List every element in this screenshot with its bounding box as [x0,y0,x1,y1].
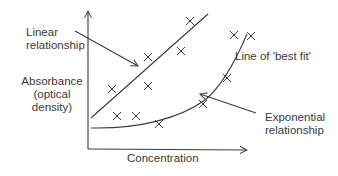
y-axis-label-line2: (optical [20,88,84,101]
linear-label-line2: relationship [26,39,85,52]
y-axis-label-line3: density) [20,101,84,114]
linear-relationship-label: Linear relationship [26,26,85,52]
linear-label-line1: Linear [26,26,85,39]
data-point-crosses [108,17,255,128]
exponential-label-line2: relationship [265,124,325,137]
y-axis-label: Absorbance (optical density) [20,75,84,114]
exponential-annotation-arrow [200,94,256,113]
linear-fit-line [91,14,208,118]
exponential-relationship-label: Exponential relationship [265,111,325,137]
exponential-label-line1: Exponential [265,111,325,124]
best-fit-label: Line of 'best fit' [235,50,311,63]
x-axis-label: Concentration [127,152,199,165]
x-axis [88,149,247,150]
y-axis-label-line1: Absorbance [20,75,84,88]
